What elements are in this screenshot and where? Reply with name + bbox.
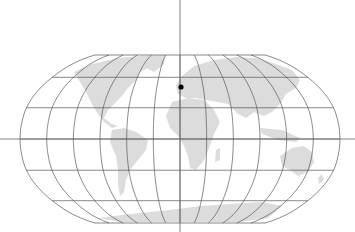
new-zealand [318, 174, 324, 184]
location-marker-dot [178, 84, 183, 89]
australia [280, 146, 314, 176]
world-map [0, 0, 355, 232]
indonesia [260, 128, 300, 142]
south-america [110, 128, 148, 196]
africa [166, 98, 220, 170]
madagascar [215, 148, 220, 162]
